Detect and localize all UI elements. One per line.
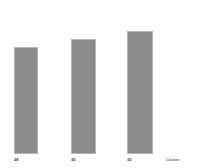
x-tick-label-citation: Citation [166, 157, 180, 162]
bar-chart: 28 30 32 Citation [0, 0, 222, 168]
bar-32 [127, 31, 153, 154]
x-tick-label-32: 32 [127, 157, 131, 162]
bar-28 [14, 47, 38, 154]
bar-30 [71, 39, 96, 154]
x-tick-label-30: 30 [71, 157, 75, 162]
x-tick-label-28: 28 [14, 157, 18, 162]
